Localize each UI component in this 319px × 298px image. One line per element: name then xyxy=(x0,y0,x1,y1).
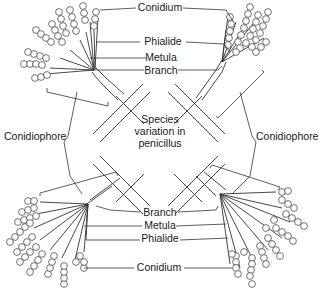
label-conidium-top: Conidium xyxy=(138,1,183,13)
penicillus-bottom-left xyxy=(7,172,120,287)
central-stipes xyxy=(93,84,225,214)
center-label-line3: penicillus xyxy=(138,137,181,149)
label-metula-top: Metula xyxy=(145,51,177,63)
center-label-line2: variation in xyxy=(135,125,186,137)
label-branch-bottom: Branch xyxy=(143,206,176,218)
penicillus-top-left xyxy=(21,3,124,106)
label-conidiophore-left: Conidiophore xyxy=(4,130,67,142)
label-branch-top: Branch xyxy=(144,64,177,76)
label-metula-bottom: Metula xyxy=(144,219,176,231)
label-conidium-bottom: Conidium xyxy=(137,261,182,273)
penicillus-bottom-right xyxy=(196,165,307,287)
center-label-line1: Species xyxy=(141,113,178,125)
penicillus-diagram: Conidium Phialide Metula Branch Species … xyxy=(0,0,319,298)
label-phialide-bottom: Phialide xyxy=(141,232,179,244)
penicillus-top-right xyxy=(196,4,271,118)
label-phialide-top: Phialide xyxy=(144,35,182,47)
label-conidiophore-right: Conidiophore xyxy=(256,130,319,142)
